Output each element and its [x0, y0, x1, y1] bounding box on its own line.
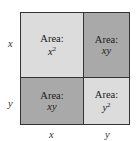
- bottom-label-y: y: [105, 129, 110, 140]
- cell-expression: xy: [102, 45, 111, 56]
- area-square-diagram: Area: x2 Area: xy Area: xy Area: y2: [20, 12, 130, 125]
- cell-xy-bottom: Area: xy: [21, 78, 84, 124]
- left-label-y: y: [8, 98, 13, 109]
- cell-label: Area:: [40, 33, 63, 44]
- cell-expression: y2: [102, 100, 110, 113]
- cell-y-squared: Area: y2: [84, 78, 129, 124]
- cell-label: Area:: [95, 34, 118, 45]
- bottom-label-x: x: [49, 129, 54, 140]
- cell-xy-top: Area: xy: [84, 13, 129, 78]
- cell-x-squared: Area: x2: [21, 13, 84, 78]
- cell-expression: xy: [47, 101, 56, 112]
- cell-label: Area:: [40, 90, 63, 101]
- left-label-x: x: [8, 38, 13, 49]
- cell-expression: x2: [48, 44, 56, 57]
- cell-label: Area:: [95, 89, 118, 100]
